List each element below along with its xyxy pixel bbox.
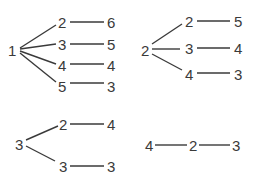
leaf-node: 5 — [234, 13, 242, 30]
root-node: 3 — [15, 136, 23, 153]
root-node: 4 — [145, 137, 153, 154]
edge-root-to-child — [152, 54, 182, 70]
child-node: 2 — [59, 116, 67, 133]
child-node: 4 — [58, 57, 66, 74]
child-node: 2 — [189, 137, 197, 154]
leaf-node: 4 — [107, 116, 115, 133]
leaf-node: 6 — [107, 14, 115, 31]
child-node: 2 — [185, 13, 193, 30]
leaf-node: 3 — [234, 66, 242, 83]
leaf-node: 3 — [232, 137, 240, 154]
leaf-node: 5 — [107, 36, 115, 53]
edge-root-to-child — [26, 126, 58, 140]
tree-diagram-svg: 1 2 3 4 5 6 5 4 3 2 2 3 4 5 4 3 3 2 3 4 … — [0, 0, 256, 183]
root-node: 2 — [141, 42, 149, 59]
child-node: 3 — [59, 158, 67, 175]
edge-root-to-child — [152, 24, 182, 44]
root-node: 1 — [8, 42, 16, 59]
leaf-node: 4 — [234, 40, 242, 57]
edge-root-to-child — [26, 146, 55, 161]
child-node: 5 — [58, 78, 66, 95]
leaf-node: 4 — [107, 57, 115, 74]
tree-1: 1 2 3 4 5 6 5 4 3 — [8, 14, 115, 95]
child-node: 2 — [58, 14, 66, 31]
child-node: 3 — [185, 40, 193, 57]
tree-4: 4 2 3 — [145, 137, 240, 154]
leaf-node: 3 — [107, 158, 115, 175]
tree-2: 2 2 3 4 5 4 3 — [141, 13, 242, 83]
child-node: 3 — [58, 36, 66, 53]
child-node: 4 — [185, 66, 193, 83]
tree-diagram-canvas: 1 2 3 4 5 6 5 4 3 2 2 3 4 5 4 3 3 2 3 4 … — [0, 0, 256, 183]
tree-3: 3 2 3 4 3 — [15, 116, 115, 175]
leaf-node: 3 — [107, 78, 115, 95]
